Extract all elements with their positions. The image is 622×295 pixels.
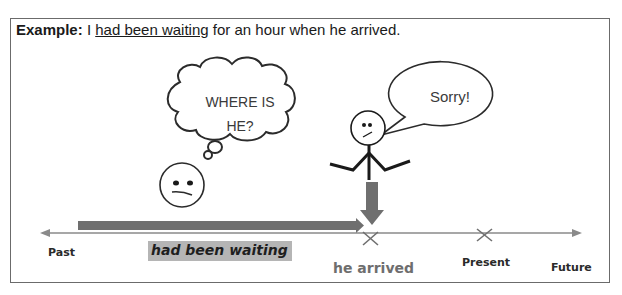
- timeline-axis: [40, 229, 582, 237]
- future-arrowhead-icon: [572, 229, 582, 237]
- thought-line-1: WHERE IS: [195, 90, 285, 114]
- thought-text: WHERE IS HE?: [195, 90, 285, 138]
- label-future: Future: [551, 261, 592, 274]
- past-arrowhead-icon: [40, 229, 50, 237]
- present-mark-icon: [477, 229, 492, 241]
- label-event: he arrived: [333, 260, 414, 276]
- label-duration: had been waiting: [148, 241, 292, 261]
- waiting-face-icon: [160, 163, 204, 207]
- arrival-mark-icon: [363, 232, 378, 245]
- duration-bar: [78, 218, 364, 233]
- speech-text: Sorry!: [415, 88, 485, 105]
- arrival-arrow-icon: [360, 182, 384, 225]
- timeline-diagram: [0, 0, 622, 295]
- thought-line-2: HE?: [195, 114, 285, 138]
- label-present: Present: [462, 256, 510, 269]
- label-past: Past: [48, 246, 75, 259]
